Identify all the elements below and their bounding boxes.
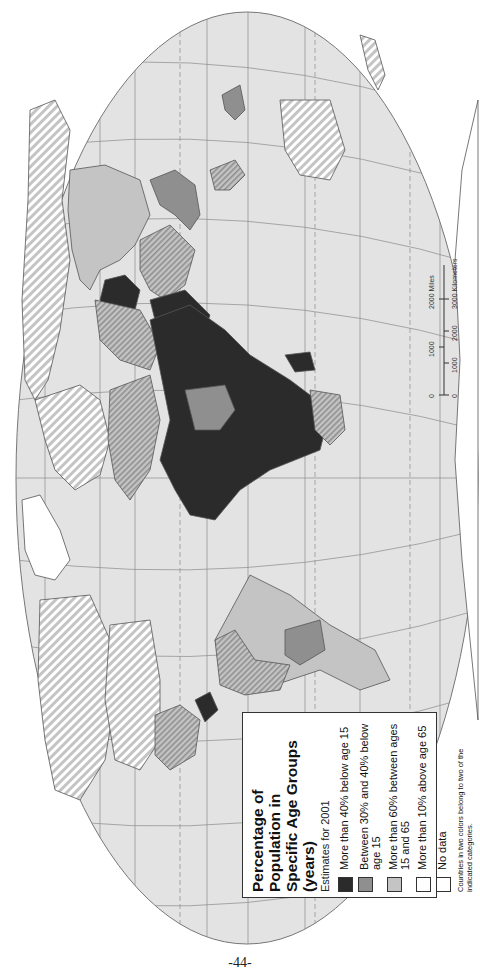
legend-item-above65-over10: More than 10% above age 65 [416, 720, 431, 892]
legend-item-below15-over40: More than 40% below age 15 [338, 720, 353, 892]
swatch-dark [338, 877, 353, 892]
map-legend: Percentage of Population in Specific Age… [242, 712, 437, 898]
legend-title-line1: Percentage of Population in [249, 720, 283, 892]
legend-label: More than 60% between ages 15 and 65 [387, 720, 411, 870]
legend-label: More than 40% below age 15 [338, 727, 350, 870]
legend-label: More than 10% above age 65 [416, 726, 428, 870]
scale-km-2000: 2000 [451, 325, 458, 341]
swatch-no-data [436, 877, 451, 892]
legend-note: Countries in two colors belong to two of… [456, 720, 474, 892]
swatch-light [387, 877, 402, 892]
legend-item-no-data: No data [436, 720, 451, 892]
scale-km-0: 0 [451, 394, 458, 398]
scale-miles-1000: 1000 [428, 341, 435, 357]
scale-bar: 0 1000 2000 Miles 0 1000 2000 3000 Kilom… [424, 245, 464, 405]
legend-title-line2: Specific Age Groups (years) [283, 720, 317, 892]
legend-label: No data [436, 831, 448, 870]
legend-subtitle: Estimates for 2001 [319, 720, 331, 892]
region-usa [105, 620, 160, 770]
scale-km-3000: 3000 Kilometers [451, 258, 458, 309]
swatch-white [416, 877, 431, 892]
scale-miles-0: 0 [428, 394, 435, 398]
scale-km-1000: 1000 [451, 357, 458, 373]
legend-label: Between 30% and 40% below age 15 [358, 720, 382, 870]
swatch-mid [358, 877, 373, 892]
legend-title: Percentage of Population in Specific Age… [249, 720, 317, 892]
legend-item-15to65-over60: More than 60% between ages 15 and 65 [387, 720, 411, 892]
page-number: -44- [0, 955, 480, 971]
scale-bar-graphic [424, 245, 464, 405]
legend-item-below15-30to40: Between 30% and 40% below age 15 [358, 720, 382, 892]
scale-miles-2000: 2000 Miles [428, 275, 435, 309]
